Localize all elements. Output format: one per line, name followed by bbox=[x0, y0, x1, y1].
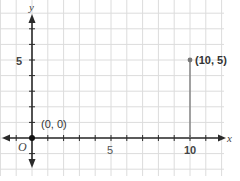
x-tick-label-5: 5 bbox=[107, 144, 113, 156]
y-axis-label: y bbox=[28, 1, 34, 13]
origin-point bbox=[29, 135, 35, 141]
coordinate-plane: y x O 5 10 5 (0, 0) (10, 5) bbox=[0, 0, 240, 181]
point-label-origin: (0, 0) bbox=[41, 118, 67, 130]
x-axis-label: x bbox=[226, 132, 232, 144]
point-label-10-5: (10, 5) bbox=[195, 54, 227, 66]
y-axis-up-arrow-icon bbox=[29, 14, 36, 23]
y-axis-down-arrow-icon bbox=[29, 159, 36, 168]
x-tick-label-10: 10 bbox=[184, 144, 196, 156]
y-tick-label-5: 5 bbox=[16, 55, 22, 67]
x-axis-left-arrow-icon bbox=[2, 135, 10, 142]
point-10-5 bbox=[188, 58, 193, 63]
origin-label: O bbox=[18, 140, 27, 154]
